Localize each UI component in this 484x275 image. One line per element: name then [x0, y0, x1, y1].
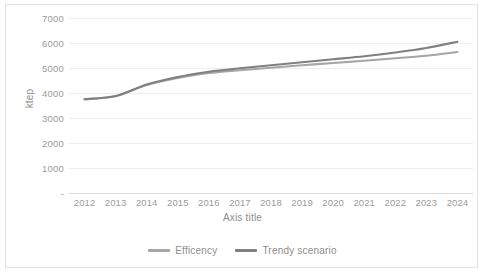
x-tick-label: 2023: [416, 197, 438, 208]
legend-item[interactable]: Efficency: [148, 245, 217, 256]
series-line: [85, 52, 458, 99]
x-tick-label: 2024: [447, 197, 469, 208]
x-tick-label: 2018: [260, 197, 282, 208]
y-tick-label: 3000: [42, 113, 64, 124]
y-tick-label: 2000: [42, 138, 64, 149]
y-tick-label: -: [61, 188, 64, 199]
x-tick-label: 2015: [167, 197, 189, 208]
x-tick-label: 2020: [322, 197, 344, 208]
x-axis-title: Axis title: [6, 212, 479, 223]
x-tick-label: 2014: [136, 197, 158, 208]
y-tick-label: 5000: [42, 63, 64, 74]
y-tick-label: 6000: [42, 38, 64, 49]
x-tick-label: 2016: [198, 197, 220, 208]
x-axis-tick-labels: 2012201320142015201620172018201920202021…: [69, 197, 473, 211]
x-tick-label: 2022: [385, 197, 407, 208]
x-tick-label: 2021: [353, 197, 375, 208]
x-tick-label: 2013: [105, 197, 127, 208]
chart-legend: EfficencyTrendy scenario: [6, 245, 479, 256]
legend-swatch-icon: [235, 249, 257, 252]
legend-swatch-icon: [148, 249, 170, 252]
y-tick-label: 4000: [42, 88, 64, 99]
plot-area: [69, 18, 473, 193]
legend-label: Trendy scenario: [262, 245, 336, 256]
y-tick-label: 1000: [42, 163, 64, 174]
series-lines: [69, 18, 473, 193]
y-axis-title: ktep: [24, 69, 35, 129]
legend-label: Efficency: [175, 245, 217, 256]
x-tick-label: 2019: [291, 197, 313, 208]
x-tick-label: 2012: [74, 197, 96, 208]
chart-container: 7000600050004000300020001000- ktep 20122…: [5, 4, 478, 268]
y-tick-label: 7000: [42, 13, 64, 24]
x-tick-label: 2017: [229, 197, 251, 208]
legend-item[interactable]: Trendy scenario: [235, 245, 336, 256]
series-line: [85, 42, 458, 100]
x-axis-line: [69, 193, 473, 194]
